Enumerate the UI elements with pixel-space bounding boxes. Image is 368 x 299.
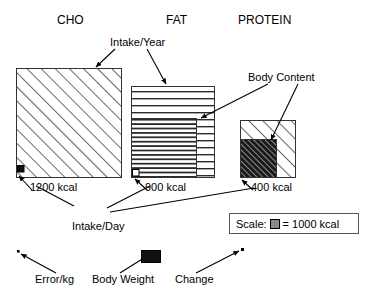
kcal-value-cho: 1200 kcal bbox=[30, 182, 77, 193]
scale-prefix-label: Scale: bbox=[236, 218, 267, 230]
column-heading-fat: FAT bbox=[166, 14, 187, 26]
intake-day-label: Intake/Day bbox=[72, 221, 125, 232]
change-arrow bbox=[196, 251, 239, 273]
nutrition-diagram: CHO FAT PROTEIN Intake/Year Body Content… bbox=[0, 0, 368, 299]
cho-intake-day-marker bbox=[18, 166, 25, 173]
intake-year-arrow-cho bbox=[96, 49, 115, 67]
body-weight-swatch-icon bbox=[141, 250, 161, 263]
intake-year-arrow-fat bbox=[147, 49, 166, 84]
intake-year-label: Intake/Year bbox=[110, 37, 165, 48]
intake-year-leaders bbox=[96, 49, 166, 84]
fat-body-content-region bbox=[132, 119, 197, 178]
body-weight-label: Body Weight bbox=[92, 274, 154, 285]
intake-day-line-fat bbox=[107, 186, 150, 208]
cho-box-group bbox=[17, 69, 122, 178]
fat-intake-year-box bbox=[132, 87, 215, 178]
error-per-kg-arrow bbox=[21, 254, 56, 273]
scale-swatch-icon bbox=[270, 219, 280, 229]
scale-equals-label: = 1000 kcal bbox=[283, 218, 340, 230]
fat-box-group bbox=[132, 87, 215, 178]
kcal-value-fat: 900 kcal bbox=[145, 182, 186, 193]
footer-leaders bbox=[21, 251, 239, 273]
body-content-leaders bbox=[201, 84, 298, 140]
fat-intake-day-marker bbox=[133, 170, 140, 177]
body-content-arrow-protein bbox=[271, 84, 298, 140]
kcal-value-protein: 400 kcal bbox=[251, 182, 292, 193]
protein-intake-year-box bbox=[241, 121, 296, 178]
cho-intake-year-box bbox=[17, 69, 122, 178]
body-content-label: Body Content bbox=[248, 72, 315, 83]
change-marker bbox=[241, 248, 244, 251]
protein-box-group bbox=[241, 121, 296, 178]
column-heading-protein: PROTEIN bbox=[238, 14, 291, 26]
change-label: Change bbox=[175, 274, 214, 285]
column-heading-cho: CHO bbox=[57, 14, 84, 26]
body-content-arrow-fat bbox=[201, 84, 268, 118]
error-per-kg-label: Error/kg bbox=[35, 274, 74, 285]
error-per-kg-marker bbox=[17, 250, 20, 253]
diagram-graphics bbox=[0, 0, 368, 299]
scale-legend: Scale: = 1000 kcal bbox=[229, 213, 359, 234]
protein-body-content-region bbox=[241, 140, 277, 178]
